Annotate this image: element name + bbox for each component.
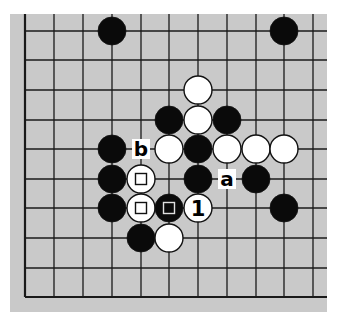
black-stone [213,106,241,134]
white-stone [184,76,212,104]
black-stone [270,17,298,45]
svg-text:a: a [220,167,234,191]
black-stone [184,165,212,193]
white-stone [270,135,298,163]
black-stone [155,106,183,134]
white-stone [184,106,212,134]
white-stone: 1 [184,194,212,222]
point-label-a: a [218,167,236,191]
black-stone [242,165,270,193]
point-label-b: b [132,137,150,161]
white-stone [213,135,241,163]
black-stone [98,17,126,45]
black-stone [270,194,298,222]
black-stone [98,165,126,193]
black-stone [127,224,155,252]
black-stone [98,135,126,163]
white-stone [127,194,155,222]
black-stone [155,194,183,222]
white-stone [155,224,183,252]
svg-text:b: b [134,137,148,161]
black-stone [184,135,212,163]
white-stone [155,135,183,163]
go-board: 1 ba [0,0,338,320]
black-stone [98,194,126,222]
white-stone [127,165,155,193]
white-stone [242,135,270,163]
move-number: 1 [191,197,206,221]
